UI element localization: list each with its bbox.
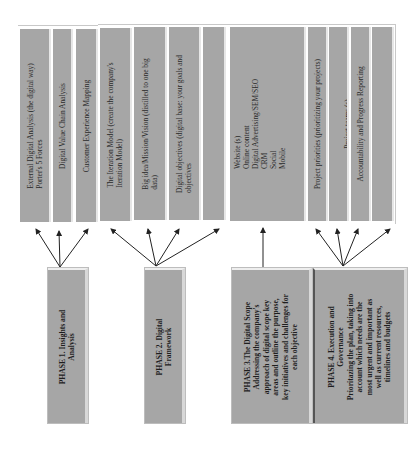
phase-text: PHASE 2. Digital Framework [154, 318, 173, 375]
phase-box-4-execution-governance: PHASE 4. Execution and Governance Priori… [313, 268, 407, 423]
phase-text: PHASE 4. Execution and Governance Priori… [327, 293, 393, 400]
phase-text: PHASE 3.The Digital Scope Addressing the… [242, 294, 298, 400]
phase-text: PHASE 1. Insights and Analysis [57, 309, 76, 384]
phase-box-2-digital-framework: PHASE 2. Digital Framework [145, 268, 185, 423]
phase-box-3-digital-scope: PHASE 3.The Digital Scope Addressing the… [232, 268, 312, 423]
phase-box-1-insights-analysis: PHASE 1. Insights and Analysis [48, 268, 88, 423]
